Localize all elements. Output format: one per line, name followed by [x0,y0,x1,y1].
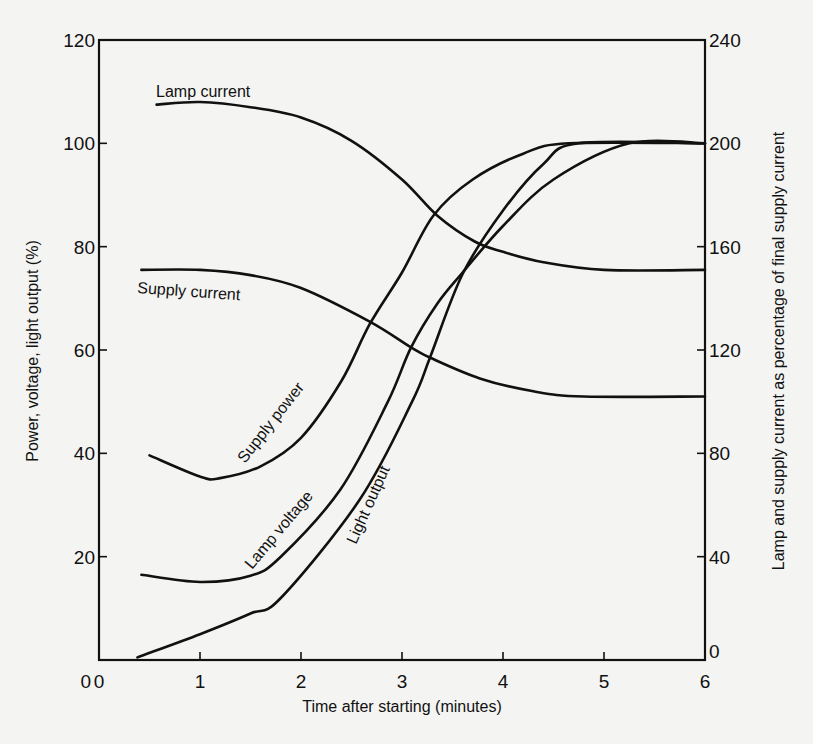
y2-tick-label: 80 [709,443,730,464]
y2-tick-label: 160 [709,237,741,258]
x-tick-label: 5 [599,671,610,692]
y2-tick-label: 200 [709,133,741,154]
label-supply-current: Supply current [137,279,242,303]
y2-axis-title: Lamp and supply current as percentage of… [770,131,787,570]
y-tick-label: 80 [74,237,95,258]
y-tick-label: 0 [80,671,91,692]
y2-tick-label: 0 [709,641,720,662]
curves [137,102,705,657]
y2-axis-ticks: 04080120160200240 [697,30,741,662]
y-tick-label: 120 [63,30,95,51]
chart: 0123456 020406080100120 0408012016020024… [0,0,813,744]
x-axis-title: Time after starting (minutes) [302,698,501,715]
y2-tick-label: 120 [709,340,741,361]
x-tick-label: 6 [700,671,711,692]
y2-tick-label: 240 [709,30,741,51]
curve-supply-power [150,143,706,480]
y-axis-ticks: 020406080100120 [63,30,107,692]
curve-lamp-voltage [141,141,705,582]
x-tick-label: 1 [195,671,206,692]
y-tick-label: 20 [74,547,95,568]
y-tick-label: 60 [74,340,95,361]
label-supply-power: Supply power [234,378,307,465]
curve-lamp-current [157,102,705,271]
axes [99,40,705,660]
y-tick-label: 40 [74,443,95,464]
x-tick-label: 4 [498,671,509,692]
y-axis-title: Power, voltage, light output (%) [24,240,41,461]
label-lamp-current: Lamp current [156,83,251,100]
y-tick-label: 100 [63,133,95,154]
x-tick-label: 0 [94,671,105,692]
x-axis-ticks: 0123456 [94,652,711,692]
y2-tick-label: 40 [709,547,730,568]
x-tick-label: 3 [397,671,408,692]
x-tick-label: 2 [296,671,307,692]
plot-frame [99,40,705,660]
